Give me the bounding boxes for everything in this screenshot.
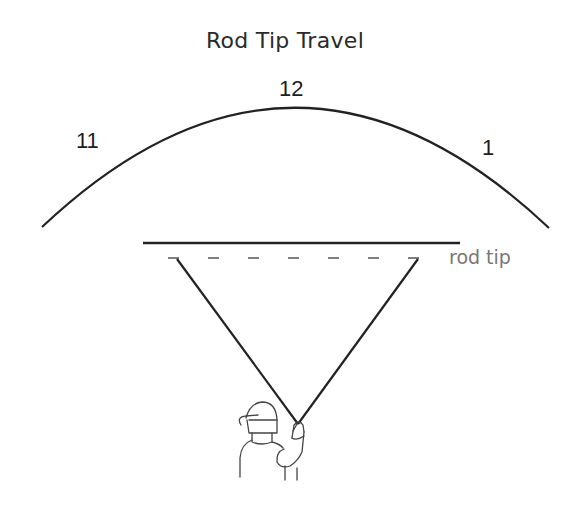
angler-icon: [239, 402, 304, 480]
rod-forward-position: [298, 259, 418, 424]
casting-arc: [42, 108, 549, 228]
rod-tip-label: rod tip: [449, 246, 511, 268]
rod-back-position: [177, 259, 298, 424]
